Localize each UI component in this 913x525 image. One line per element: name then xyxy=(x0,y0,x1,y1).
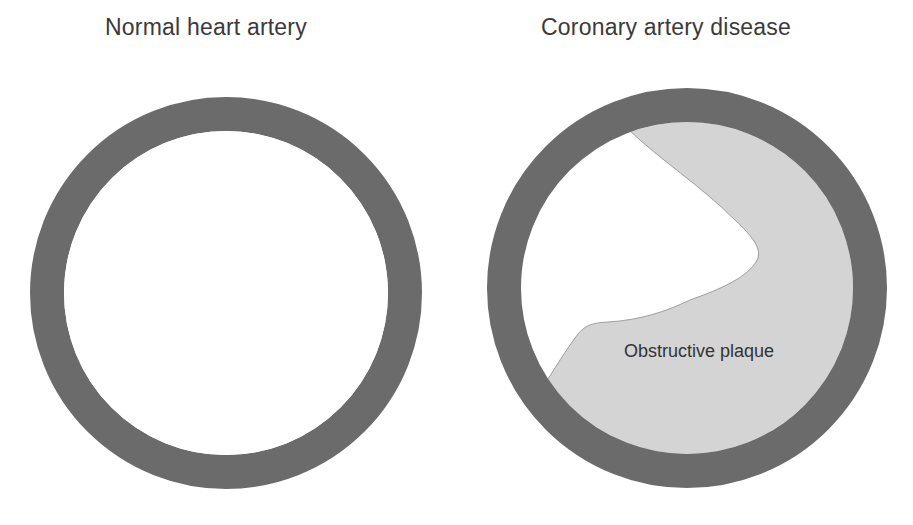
normal-artery xyxy=(47,114,405,472)
artery-cross-section-diagram: Obstructive plaque xyxy=(0,0,913,525)
diseased-artery: Obstructive plaque xyxy=(504,100,880,480)
plaque-label: Obstructive plaque xyxy=(624,341,774,361)
normal-artery-lumen xyxy=(64,131,388,455)
